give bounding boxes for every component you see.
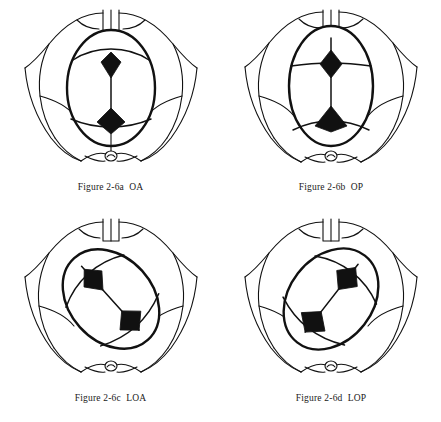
illustration-op [231, 4, 431, 176]
fetal-skull-loa [42, 230, 178, 368]
figure-panel-2-6a: Figure 2-6a OA [0, 0, 221, 211]
anus-loa [105, 361, 117, 371]
figure-caption-2-6c: Figure 2-6c LOA [75, 393, 147, 403]
anus-lop [325, 361, 337, 371]
figure-panel-2-6c: Figure 2-6c LOA [0, 211, 221, 422]
anus-oa [105, 151, 117, 161]
figure-grid: Figure 2-6a OA [0, 0, 441, 422]
figure-panel-2-6d: Figure 2-6d LOP [221, 211, 441, 422]
fetal-skull-oa [67, 30, 155, 152]
illustration-loa [11, 215, 211, 387]
illustration-lop [231, 215, 431, 387]
figure-caption-2-6d: Figure 2-6d LOP [296, 393, 367, 403]
figure-panel-2-6b: Figure 2-6b OP [221, 0, 441, 211]
figure-caption-2-6b: Figure 2-6b OP [299, 182, 364, 192]
fetal-skull-lop [264, 230, 398, 368]
illustration-oa [11, 4, 211, 176]
fetal-skull-op [289, 26, 373, 146]
figure-caption-2-6a: Figure 2-6a OA [78, 182, 144, 192]
anus-op [325, 151, 337, 161]
